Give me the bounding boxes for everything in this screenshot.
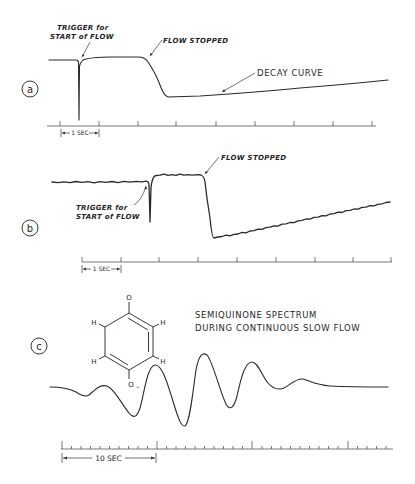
scale-label-a: 1 SEC	[71, 129, 89, 136]
trigger-label-b-line2: START of FLOW	[76, 213, 140, 221]
figure: a TRIGGER for START of FLOW FLOW STOPPED…	[0, 0, 415, 484]
trigger-label-b-line1: TRIGGER for	[76, 204, 128, 212]
hydrogen-upper-left: H	[91, 319, 96, 327]
panel-label-a: a	[22, 81, 38, 97]
spectrum-title-line2: DURING CONTINUOUS SLOW FLOW	[195, 323, 360, 333]
trigger-leader-b	[134, 186, 146, 205]
panel-a: a TRIGGER for START of FLOW FLOW STOPPED…	[22, 24, 388, 137]
decay-curve-label-a: DECAY CURVE	[257, 68, 323, 78]
semiquinone-structure: O O – H H H H	[91, 294, 165, 391]
trace-a	[49, 57, 388, 120]
hydrogen-upper-right: H	[160, 319, 165, 327]
scale-bar-b: 1 SEC	[82, 265, 121, 273]
trigger-label-a-line2: START of FLOW	[50, 33, 114, 41]
flow-stopped-label-a: FLOW STOPPED	[163, 37, 228, 45]
trigger-label-a-line1: TRIGGER for	[57, 24, 109, 32]
flow-stopped-label-b: FLOW STOPPED	[221, 154, 286, 162]
time-axis-a	[47, 121, 376, 126]
hydrogen-lower-right: H	[160, 358, 165, 366]
flow-stopped-leader-a	[150, 40, 162, 56]
panel-label-b: b	[22, 220, 38, 236]
panel-label-text-b: b	[27, 223, 33, 234]
panel-label-c: c	[31, 338, 47, 354]
time-axis-b	[82, 257, 392, 262]
scale-bar-a: 1 SEC	[61, 129, 99, 137]
spectrum-title-line1: SEMIQUINONE SPECTRUM	[195, 310, 317, 320]
panel-label-text-c: c	[36, 341, 42, 352]
panel-c: c SEMIQUINONE SPECTRUM DURING CONTINUOUS…	[31, 294, 393, 463]
oxygen-top: O	[126, 294, 132, 302]
oxygen-bottom: O	[128, 381, 134, 389]
flow-stopped-leader-b	[205, 157, 219, 174]
panel-label-text-a: a	[27, 84, 33, 95]
scale-bar-c: 10 SEC	[62, 453, 156, 463]
panel-b: b FLOW STOPPED TRIGGER for START of FLOW	[22, 154, 392, 273]
trace-c-spectrum	[50, 354, 388, 426]
scale-label-b: 1 SEC	[93, 265, 111, 272]
scale-label-c: 10 SEC	[95, 454, 122, 463]
benzene-ring	[105, 313, 153, 370]
time-axis-c	[61, 441, 393, 449]
oxygen-charge: –	[136, 383, 140, 391]
decay-curve-leader-a	[222, 73, 255, 92]
hydrogen-lower-left: H	[91, 358, 96, 366]
